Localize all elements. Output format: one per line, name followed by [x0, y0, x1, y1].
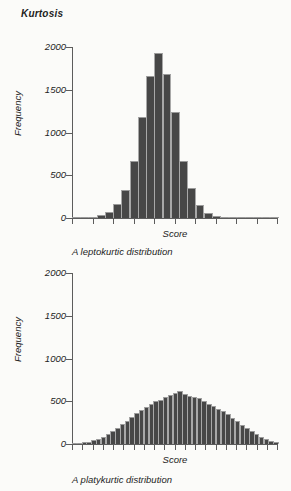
x-axis-tick: [277, 219, 278, 224]
x-axis-tick: [93, 445, 94, 450]
y-axis-tick: [66, 47, 72, 48]
x-axis-tick: [216, 445, 217, 450]
y-axis-tick: [66, 359, 72, 360]
y-axis-tick: [66, 316, 72, 317]
histogram-bars: [72, 273, 278, 444]
y-axis-tick: [66, 175, 72, 176]
x-axis-tick: [144, 445, 145, 450]
x-axis-tick: [195, 219, 196, 224]
y-axis-tick-label: 2000: [18, 267, 66, 278]
x-axis-tick: [103, 445, 104, 450]
chart-caption: A leptokurtic distribution: [72, 246, 173, 257]
x-axis-tick: [185, 445, 186, 450]
x-axis-tick: [236, 445, 237, 450]
y-axis-tick-label: 0: [18, 212, 66, 223]
chart-caption: A platykurtic distribution: [72, 474, 172, 485]
x-axis-title: Score: [72, 454, 278, 465]
x-axis-tick: [226, 445, 227, 450]
y-axis-tick: [66, 133, 72, 134]
y-axis-tick-label: 1000: [18, 127, 66, 138]
y-axis-tick: [66, 90, 72, 91]
y-axis-tick-label: 1500: [18, 84, 66, 95]
y-axis-title: Frequency: [12, 69, 23, 159]
figure-page: Kurtosis Frequency 0500100015002000 Scor…: [0, 0, 291, 491]
x-axis-tick: [123, 445, 124, 450]
histogram-bars: [72, 47, 278, 218]
y-axis-tick-label: 2000: [18, 41, 66, 52]
x-axis-tick: [134, 219, 135, 224]
x-axis-tick: [154, 219, 155, 224]
page-title: Kurtosis: [21, 8, 63, 19]
x-axis-tick: [257, 219, 258, 224]
chart-platykurtic: Frequency 0500100015002000 Score A platy…: [0, 262, 291, 490]
histogram-bar: [273, 442, 278, 444]
y-axis-tick-label: 0: [18, 438, 66, 449]
chart-leptokurtic: Frequency 0500100015002000 Score A lepto…: [0, 36, 291, 256]
x-axis-tick: [164, 445, 165, 450]
x-axis-tick: [93, 219, 94, 224]
x-axis-tick: [72, 445, 73, 450]
x-axis-tick: [246, 445, 247, 450]
x-axis-tick: [113, 219, 114, 224]
x-axis-tick: [216, 219, 217, 224]
x-axis-tick: [277, 445, 278, 450]
y-axis-tick: [66, 401, 72, 402]
x-axis-tick: [154, 445, 155, 450]
plot-area-platykurtic: [72, 273, 278, 444]
y-axis-tick-label: 1000: [18, 353, 66, 364]
x-axis-tick: [257, 445, 258, 450]
x-axis-tick: [72, 219, 73, 224]
y-axis-tick-label: 500: [18, 395, 66, 406]
y-axis-tick: [66, 273, 72, 274]
y-axis-tick-label: 1500: [18, 310, 66, 321]
x-axis-title: Score: [72, 228, 278, 239]
x-axis-tick: [134, 445, 135, 450]
x-axis-tick: [195, 445, 196, 450]
x-axis-tick: [205, 445, 206, 450]
x-axis-tick: [82, 445, 83, 450]
x-axis-tick: [175, 219, 176, 224]
x-axis-tick: [113, 445, 114, 450]
x-axis-tick: [236, 219, 237, 224]
plot-area-leptokurtic: [72, 47, 278, 218]
x-axis-tick: [175, 445, 176, 450]
histogram-bar: [270, 217, 279, 218]
x-axis-tick: [267, 445, 268, 450]
y-axis-title: Frequency: [12, 295, 23, 385]
y-axis-tick-label: 500: [18, 169, 66, 180]
